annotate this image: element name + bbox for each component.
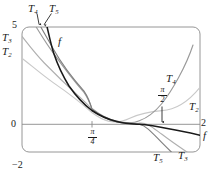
axis-label-2: 2 [201, 118, 206, 128]
marker-pi-over-2: π 2 [156, 86, 169, 104]
label-T2-right: T2 [189, 101, 199, 114]
axis-label-minus-2: −2 [12, 160, 23, 170]
label-T4-right: T4 [166, 73, 176, 86]
label-T2-left: T2 [2, 46, 12, 59]
label-f-right: f [203, 130, 206, 141]
label-T3-bottom: T3 [178, 150, 188, 163]
label-T3-left: T3 [2, 32, 12, 45]
axis-label-5: 5 [12, 20, 17, 30]
axis-label-0: 0 [11, 119, 16, 129]
tick-label-pi-over-4: π 4 [86, 128, 99, 146]
label-T4-top: T4 [28, 3, 38, 16]
label-f-top: f [58, 36, 61, 47]
label-T5-bottom: T5 [153, 152, 163, 165]
label-T5-top: T5 [49, 3, 59, 16]
